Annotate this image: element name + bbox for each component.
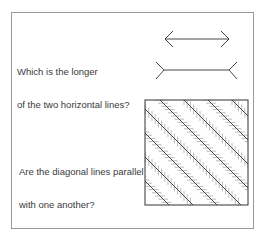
muller-lyer-arrow-outward <box>156 62 237 79</box>
zollner-illusion <box>40 95 264 207</box>
illusion-figures <box>0 0 264 237</box>
muller-lyer-arrow-inward <box>165 31 229 47</box>
zollner-square <box>145 100 248 205</box>
